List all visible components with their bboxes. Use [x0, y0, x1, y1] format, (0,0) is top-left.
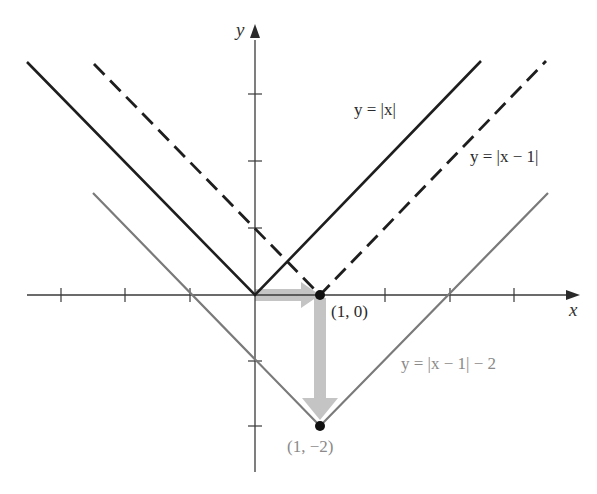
- curve-abs-x: [27, 61, 481, 295]
- graph-canvas: [0, 0, 597, 494]
- y-axis-label: y: [236, 20, 244, 39]
- point-1-neg2: [315, 421, 325, 431]
- point-1-0: [315, 290, 325, 300]
- x-axis-label: x: [569, 300, 577, 319]
- curve-abs-x-minus-1: [94, 61, 546, 295]
- label-point-1-0: (1, 0): [331, 303, 368, 320]
- y-axis-arrowhead: [250, 24, 260, 38]
- label-abs-x-minus-1: y = |x − 1|: [470, 148, 538, 165]
- label-abs-x: y = |x|: [354, 101, 396, 118]
- translation-arrows: [255, 282, 338, 420]
- label-point-1-neg2: (1, −2): [287, 438, 333, 455]
- label-abs-x-minus-1-minus-2: y = |x − 1| − 2: [401, 355, 496, 372]
